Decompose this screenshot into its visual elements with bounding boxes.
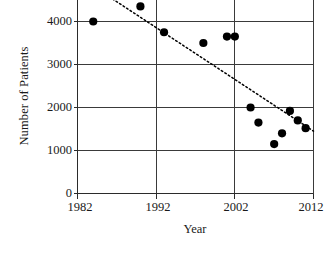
data-point-6 bbox=[246, 103, 254, 111]
data-point-10 bbox=[286, 107, 294, 115]
trendline bbox=[78, 0, 314, 131]
data-point-8 bbox=[270, 140, 278, 148]
trendline-group bbox=[78, 0, 314, 131]
data-point-9 bbox=[278, 129, 286, 137]
data-points-group bbox=[89, 2, 310, 148]
data-point-0 bbox=[89, 17, 97, 25]
data-point-5 bbox=[231, 32, 239, 40]
axis-ticks-group bbox=[74, 22, 314, 199]
data-point-4 bbox=[223, 32, 231, 40]
data-point-1 bbox=[136, 2, 144, 10]
data-point-11 bbox=[294, 116, 302, 124]
data-point-2 bbox=[160, 28, 168, 36]
gridlines-group bbox=[78, 0, 314, 194]
plot-area bbox=[0, 0, 332, 272]
axis-lines-group bbox=[78, 0, 314, 194]
data-point-7 bbox=[254, 118, 262, 126]
data-point-12 bbox=[302, 124, 310, 132]
data-point-3 bbox=[199, 39, 207, 47]
scatter-chart-figure: Number of Patients 4000 3000 2000 1000 0… bbox=[0, 0, 332, 272]
